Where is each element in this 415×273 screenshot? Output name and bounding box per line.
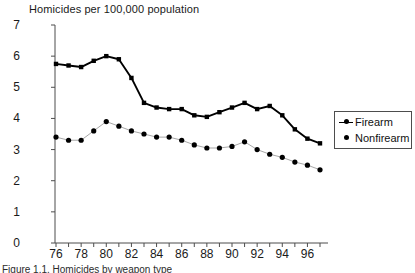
x-tick-label: 76 — [49, 248, 62, 260]
data-point — [180, 107, 184, 111]
data-point — [91, 128, 96, 133]
legend-label-nonfirearm: Nonfirearm — [355, 132, 409, 144]
data-point — [280, 155, 285, 160]
legend-label-firearm: Firearm — [355, 116, 393, 128]
figure-caption: Figure 1.1. Homicides by weapon type — [2, 264, 172, 273]
data-point — [192, 142, 197, 147]
data-point — [116, 124, 121, 129]
data-point — [318, 141, 322, 145]
axis-lines — [51, 25, 328, 247]
data-point — [292, 159, 297, 164]
data-point — [141, 131, 146, 136]
y-tick-label: 0 — [6, 237, 20, 249]
series-nonfirearm — [53, 119, 322, 172]
data-point — [53, 135, 58, 140]
data-point — [92, 59, 96, 63]
data-point — [229, 144, 234, 149]
chart-legend: Firearm Nonfirearm — [334, 111, 412, 149]
data-point — [255, 147, 260, 152]
data-point — [293, 127, 297, 131]
data-point — [217, 145, 222, 150]
data-point — [242, 101, 246, 105]
data-point — [79, 138, 84, 143]
data-point — [230, 105, 234, 109]
y-tick-label: 6 — [6, 50, 20, 62]
data-point — [66, 138, 71, 143]
data-point — [192, 113, 196, 117]
data-point — [117, 57, 121, 61]
y-tick-label: 3 — [6, 144, 20, 156]
x-tick-label: 82 — [125, 248, 138, 260]
data-point — [255, 107, 259, 111]
legend-item-nonfirearm[interactable]: Nonfirearm — [339, 130, 409, 146]
data-point — [205, 115, 209, 119]
data-point — [129, 76, 133, 80]
legend-dot-marker-icon — [339, 133, 353, 143]
legend-line-marker-icon — [339, 117, 353, 127]
data-point — [154, 135, 159, 140]
data-point — [280, 113, 284, 117]
data-point — [66, 63, 70, 67]
data-point — [305, 136, 309, 140]
y-tick-label: 1 — [6, 206, 20, 218]
data-point — [167, 107, 171, 111]
y-tick-label: 2 — [6, 175, 20, 187]
x-tick-label: 78 — [74, 248, 87, 260]
x-tick-label: 86 — [175, 248, 188, 260]
x-tick-label: 80 — [100, 248, 113, 260]
data-point — [242, 139, 247, 144]
data-point — [154, 105, 158, 109]
data-point — [79, 65, 83, 69]
data-point — [204, 145, 209, 150]
data-point — [142, 101, 146, 105]
data-point — [54, 62, 58, 66]
y-axis-tick-labels: 01234567 — [0, 0, 20, 273]
data-point — [305, 163, 310, 168]
data-point — [179, 138, 184, 143]
y-tick-label: 7 — [6, 19, 20, 31]
x-tick-label: 96 — [301, 248, 314, 260]
data-point — [217, 110, 221, 114]
chart-figure: Homicides per 100,000 population 0123456… — [0, 0, 415, 273]
x-tick-label: 92 — [250, 248, 263, 260]
data-point — [268, 104, 272, 108]
data-point — [317, 167, 322, 172]
data-series-layer — [53, 54, 322, 172]
legend-item-firearm[interactable]: Firearm — [339, 114, 393, 130]
x-tick-label: 94 — [276, 248, 289, 260]
y-tick-label: 4 — [6, 112, 20, 124]
data-point — [129, 128, 134, 133]
data-point — [267, 152, 272, 157]
x-tick-label: 84 — [150, 248, 163, 260]
x-tick-label: 88 — [200, 248, 213, 260]
data-point — [104, 54, 108, 58]
y-tick-label: 5 — [6, 81, 20, 93]
chart-title: Homicides per 100,000 population — [29, 3, 199, 16]
x-tick-label: 90 — [225, 248, 238, 260]
data-point — [167, 135, 172, 140]
data-point — [104, 119, 109, 124]
